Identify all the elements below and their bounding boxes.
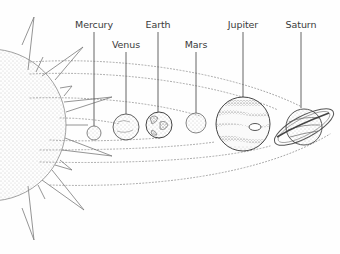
label-earth: Earth xyxy=(146,19,171,30)
orbit-paths xyxy=(30,61,330,186)
label-mars: Mars xyxy=(185,39,207,50)
planet-saturn xyxy=(270,102,339,152)
label-saturn: Saturn xyxy=(286,19,317,30)
label-venus: Venus xyxy=(112,39,140,50)
planet-jupiter xyxy=(214,97,274,152)
label-jupiter: Jupiter xyxy=(228,19,258,30)
planet-mercury xyxy=(87,126,101,140)
planet-mars xyxy=(186,113,206,133)
sun xyxy=(0,49,66,201)
diagram-canvas xyxy=(0,0,340,254)
planet-earth xyxy=(146,112,172,138)
label-mercury: Mercury xyxy=(75,19,113,30)
solar-system-diagram: Mercury Venus Earth Mars Jupiter Saturn xyxy=(0,0,340,254)
planet-venus xyxy=(113,114,139,140)
